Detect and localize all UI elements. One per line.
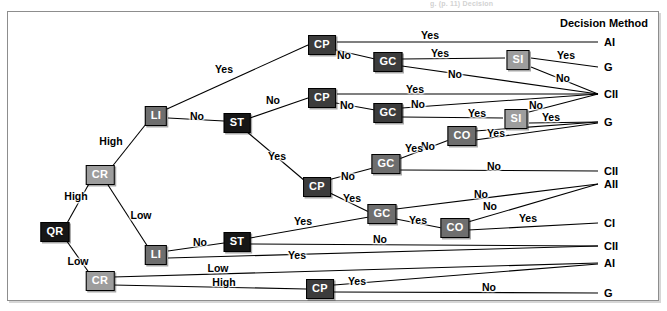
edge-label-no-24: No xyxy=(341,170,355,182)
edge-label-no-37: No xyxy=(482,281,496,293)
tree-node-li2[interactable]: LI xyxy=(145,245,167,265)
edge-label-high-35: High xyxy=(212,276,235,288)
edge-label-no-15: No xyxy=(340,99,354,111)
edge-label-yes-19: Yes xyxy=(542,111,560,123)
edge-GC1-to-SI1 xyxy=(402,58,505,59)
tree-node-cp1[interactable]: CP xyxy=(308,35,336,55)
tree-node-co1[interactable]: CO xyxy=(447,126,476,146)
edge-LI1-to-CP1 xyxy=(167,45,308,109)
outcome-label-o2: G xyxy=(604,61,613,73)
edge-label-yes-12: Yes xyxy=(557,49,575,61)
edge-label-no-11: No xyxy=(448,68,462,80)
edge-label-yes-30: Yes xyxy=(294,215,312,227)
edge-label-no-16: No xyxy=(411,98,425,110)
outcome-label-o6: AII xyxy=(604,178,618,190)
edge-label-no-31: No xyxy=(193,236,207,248)
edge-label-no-23: No xyxy=(487,160,501,172)
edge-label-yes-33: Yes xyxy=(288,249,306,261)
tree-node-gc2[interactable]: GC xyxy=(373,103,402,123)
tree-node-cp4[interactable]: CP xyxy=(306,279,334,299)
edge-QR-to-CR1 xyxy=(66,182,90,225)
edge-label-low-1: Low xyxy=(68,255,89,267)
tree-node-cp2[interactable]: CP xyxy=(308,88,336,108)
tree-node-cr1[interactable]: CR xyxy=(86,165,115,185)
tree-node-co2[interactable]: CO xyxy=(440,218,469,238)
edge-label-no-6: No xyxy=(266,94,280,106)
edge-label-high-2: High xyxy=(99,135,122,147)
edge-label-yes-4: Yes xyxy=(215,63,233,75)
edge-label-high-0: High xyxy=(64,190,87,202)
tree-node-st1[interactable]: ST xyxy=(224,113,251,133)
edge-CP4-to-o10 xyxy=(334,292,598,293)
edge-label-no-5: No xyxy=(190,110,204,122)
tree-node-st2[interactable]: ST xyxy=(224,232,251,252)
edge-CR2-to-CP4 xyxy=(113,285,306,289)
edge-label-yes-17: Yes xyxy=(468,107,486,119)
outcome-label-o10: G xyxy=(604,287,613,299)
edge-label-yes-28: Yes xyxy=(409,214,427,226)
edge-label-low-34: Low xyxy=(208,262,229,274)
outcome-label-o4: G xyxy=(604,116,613,128)
outcome-label-o5: CII xyxy=(604,165,618,177)
tree-node-gc3[interactable]: GC xyxy=(371,154,400,174)
edge-ST2-to-o8 xyxy=(250,244,598,246)
outcome-label-o1: AI xyxy=(604,36,615,48)
edge-label-no-32: No xyxy=(373,233,387,245)
outcome-label-o7: CI xyxy=(604,217,615,229)
tree-node-li1[interactable]: LI xyxy=(145,106,167,126)
edge-label-no-21: No xyxy=(421,140,435,152)
tree-node-si1[interactable]: SI xyxy=(507,50,530,70)
decision-method-header: Decision Method xyxy=(560,17,648,29)
edge-label-no-18: No xyxy=(529,99,543,111)
decision-tree-figure: g. (p. 11) Decision Decision Method QRCR… xyxy=(0,0,667,311)
edge-label-yes-20: Yes xyxy=(487,127,505,139)
edge-label-yes-7: Yes xyxy=(268,150,286,162)
edge-label-low-3: Low xyxy=(131,209,152,221)
edge-label-yes-29: Yes xyxy=(519,212,537,224)
edge-label-no-9: No xyxy=(337,49,351,61)
edge-CO2-to-o7 xyxy=(468,223,598,230)
tree-node-gc1[interactable]: GC xyxy=(373,52,402,72)
outcome-label-o9: AI xyxy=(604,257,615,269)
edge-label-no-26: No xyxy=(474,188,488,200)
edge-label-yes-22: Yes xyxy=(405,142,423,154)
outcome-label-o3: CII xyxy=(604,88,618,100)
edge-label-yes-10: Yes xyxy=(431,47,449,59)
edge-label-yes-36: Yes xyxy=(348,275,366,287)
edge-GC2-to-SI2 xyxy=(402,117,503,118)
outcome-label-o8: CII xyxy=(604,240,618,252)
edge-label-yes-8: Yes xyxy=(421,29,439,41)
tree-node-si2[interactable]: SI xyxy=(505,109,528,129)
tree-node-gc4[interactable]: GC xyxy=(367,204,396,224)
tree-node-cr2[interactable]: CR xyxy=(86,271,115,291)
edge-label-yes-25: Yes xyxy=(343,192,361,204)
edge-label-no-27: No xyxy=(483,200,497,212)
tree-node-qr[interactable]: QR xyxy=(40,222,69,242)
tree-node-cp3[interactable]: CP xyxy=(303,177,331,197)
edge-label-yes-14: Yes xyxy=(406,83,424,95)
edge-GC4-to-o6 xyxy=(396,184,598,209)
edge-label-no-13: No xyxy=(556,72,570,84)
edge-GC2-to-o3 xyxy=(402,94,598,108)
